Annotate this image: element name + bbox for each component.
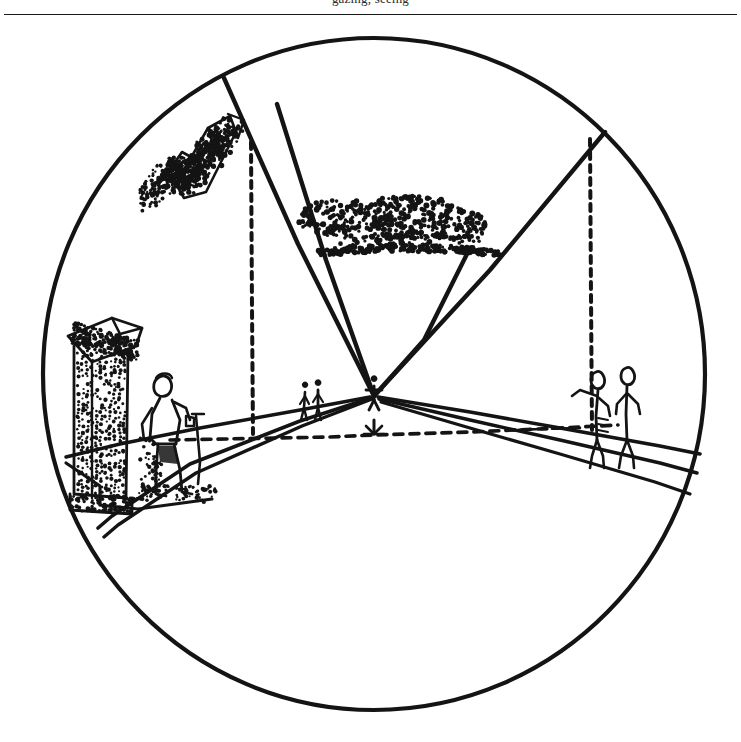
stipple-dot [107,453,110,456]
stipple-dot [76,428,79,431]
stipple-dot [81,418,84,421]
stipple-dot [83,500,86,503]
stipple-dot [391,235,395,239]
stipple-dot [108,437,112,441]
stipple-dot [94,497,97,500]
stipple-dot [352,251,357,256]
stipple-dot [450,205,454,209]
stipple-dot [148,175,150,177]
stipple-dot [78,432,80,434]
stipple-dot [144,475,147,478]
stipple-dot [357,230,360,233]
stipple-dot [340,214,345,219]
stipple-dot [80,362,84,366]
stipple-dot [129,500,132,503]
stipple-dot [241,129,245,133]
stipple-dot [77,505,81,509]
stipple-dot [427,246,430,249]
stipple-dot [101,486,104,489]
stipple-dot [146,191,148,193]
stipple-dot [474,215,478,219]
stipple-dot [76,326,81,331]
stipple-dot [163,484,167,488]
stipple-dot [118,372,122,376]
stipple-dot [150,193,154,197]
stipple-dot [408,243,412,247]
stipple-dot [98,360,101,363]
stipple-dot [220,147,225,152]
stipple-dot [85,473,87,475]
stipple-dot [88,336,91,339]
stipple-dot [121,483,125,487]
stipple-dot [118,416,121,419]
stipple-dot [118,479,122,483]
stipple-dot [411,237,414,240]
stipple-dot [142,445,146,449]
stipple-dot [119,421,122,424]
stipple-dot [90,419,93,422]
stipple-dot [89,381,92,384]
stipple-dot [225,134,229,138]
stipple-dot [104,437,108,441]
stipple-dot [141,185,145,189]
stipple-dot [172,190,177,195]
stipple-dot [145,499,148,502]
stipple-dot [303,206,308,211]
right-road-edge-top [378,397,700,454]
stipple-dot [160,463,162,465]
stipple-dot [85,354,89,358]
right-road-edge-bottom [381,402,690,494]
stipple-dot [95,388,99,392]
stipple-dot [235,140,238,143]
stipple-dot [123,462,127,466]
stipple-dot [110,375,113,378]
stipple-dot [469,223,472,226]
right-road-edge-mid [379,399,697,473]
stipple-dot [497,249,500,252]
stipple-dot [301,212,306,217]
stipple-dot [191,169,196,174]
stipple-dot [85,346,88,349]
stipple-dot [89,411,92,414]
stipple-dot [169,160,171,162]
stipple-dot [398,236,402,240]
stipple-dot [90,459,94,463]
stipple-dot [140,478,143,481]
stipple-dot [124,335,129,340]
stipple-dot [412,245,417,250]
stipple-dot [353,209,358,214]
stipple-dot [113,498,117,502]
stipple-dot [121,424,125,428]
stipple-dot [113,453,116,456]
stipple-dot [119,459,122,462]
stipple-dot [107,433,110,436]
stipple-dot [160,190,164,194]
stipple-dot [85,361,88,364]
stipple-dot [100,465,103,468]
stipple-dot [462,247,465,250]
stipple-dot [441,224,446,229]
stipple-dot [308,225,311,228]
stipple-dot [122,360,125,363]
stipple-dot [152,455,154,457]
stipple-dot [328,250,332,254]
stipple-dot [399,196,404,201]
stipple-dot [112,397,115,400]
stipple-dot [193,167,196,170]
stipple-dot [196,489,199,492]
stipple-dot [484,247,489,252]
stipple-dot [157,191,160,194]
stipple-dot [113,353,116,356]
stipple-dot [174,166,177,169]
stipple-dot [122,351,124,353]
stipple-dot [108,391,112,395]
stipple-dot [211,496,213,498]
stipple-dot [92,337,95,340]
stipple-dot [81,424,85,428]
stipple-dot [81,431,85,435]
stipple-dot [200,137,205,142]
stipple-dot [184,487,187,490]
stipple-dot [70,505,74,509]
stipple-dot [363,208,366,211]
stipple-dot [479,227,483,231]
